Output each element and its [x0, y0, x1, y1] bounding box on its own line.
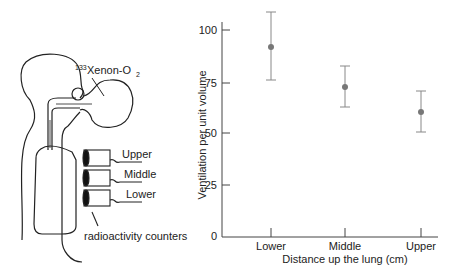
xtick-lower: Lower — [256, 240, 286, 252]
chart: 100 75 50 25 0 Lower Middle Upper Distan… — [196, 12, 438, 265]
counter-label-upper: Upper — [122, 148, 152, 160]
point-upper — [418, 109, 424, 115]
gas-label: Xenon-O — [87, 64, 131, 76]
gas-label-sup: 133 — [75, 64, 87, 71]
x-ticks — [271, 228, 421, 237]
lung — [34, 146, 76, 234]
ytick-0: 0 — [211, 230, 217, 242]
xtick-upper: Upper — [406, 240, 436, 252]
error-bars — [266, 12, 426, 132]
counter-label-middle: Middle — [124, 168, 156, 180]
figure: 133 Xenon-O 2 Upper Middle Lower radioac… — [0, 0, 449, 276]
y-axis-label: Ventilation per unit volume — [196, 70, 208, 199]
gas-label-sub: 2 — [136, 71, 140, 78]
counters-caption: radioactivity counters — [84, 230, 188, 242]
data-points — [268, 44, 424, 115]
xtick-middle: Middle — [329, 240, 361, 252]
x-axis-label: Distance up the lung (cm) — [282, 253, 407, 265]
point-lower — [268, 44, 274, 50]
y-ticks — [222, 30, 230, 185]
point-middle — [342, 84, 348, 90]
ytick-100: 100 — [199, 24, 217, 36]
counter-label-lower: Lower — [126, 188, 156, 200]
